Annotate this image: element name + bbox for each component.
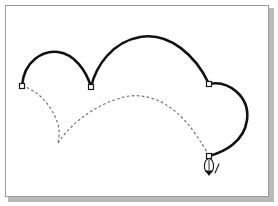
dashed-guide-main [58, 96, 209, 156]
vector-canvas[interactable] [0, 0, 278, 206]
screenshot-root [0, 0, 278, 206]
anchor-point-1[interactable] [20, 84, 25, 89]
anchor-point-4[interactable] [207, 154, 212, 159]
dashed-guide-left [22, 86, 59, 143]
anchor-point-3[interactable] [207, 82, 212, 87]
pen-nib-tip-icon [205, 171, 212, 177]
pen-tool-cursor[interactable] [204, 154, 219, 177]
pen-new-path-indicator-icon [215, 164, 219, 173]
bezier-path[interactable] [22, 36, 247, 156]
anchor-point-2[interactable] [89, 85, 94, 90]
